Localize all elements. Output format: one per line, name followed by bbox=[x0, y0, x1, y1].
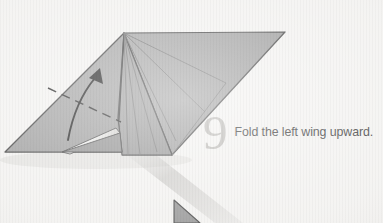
instruction-text: Fold the left wing upward. bbox=[235, 125, 374, 141]
origami-instruction-page: 9 Fold the left wing upward. bbox=[0, 0, 383, 223]
instruction-caption: 9 Fold the left wing upward. bbox=[203, 108, 373, 157]
next-step-figure-peek bbox=[174, 200, 200, 223]
step-number: 9 bbox=[203, 108, 235, 157]
